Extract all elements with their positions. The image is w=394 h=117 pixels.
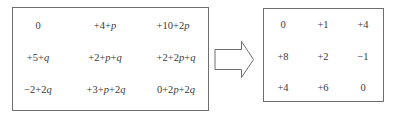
- right-cell-2-2: 0: [360, 82, 365, 94]
- right-cell-0-1: +1: [317, 19, 328, 31]
- right-cell-2-1: +6: [317, 82, 328, 94]
- left-cell-2-2: 0+2p+2q: [157, 84, 195, 96]
- left-cell-0-2: +10+2p: [157, 20, 190, 32]
- left-cell-2-0: −2+2q: [24, 84, 52, 96]
- left-cell-2-1: +3+p+2q: [87, 84, 126, 96]
- left-cell-0-1: +4+p: [94, 20, 116, 32]
- right-cell-1-2: −1: [357, 51, 368, 63]
- right-cell-0-0: 0: [280, 19, 285, 31]
- left-cell-1-2: +2+2p+q: [157, 52, 196, 64]
- right-matrix-box: 0 +1 +4 +8 +2 −1 +4 +6 0: [263, 8, 384, 102]
- hollow-right-arrow-icon: [214, 40, 256, 79]
- left-cell-1-0: +5+q: [27, 52, 49, 64]
- left-cell-0-0: 0: [35, 20, 40, 32]
- left-matrix-box: 0 +4+p +10+2p +5+q +2+p+q +2+2p+q −2+2q …: [12, 7, 209, 111]
- right-cell-0-2: +4: [357, 19, 368, 31]
- right-cell-1-0: +8: [277, 51, 288, 63]
- right-cell-2-0: +4: [277, 82, 288, 94]
- right-cell-1-1: +2: [317, 51, 328, 63]
- left-cell-1-1: +2+p+q: [88, 52, 122, 64]
